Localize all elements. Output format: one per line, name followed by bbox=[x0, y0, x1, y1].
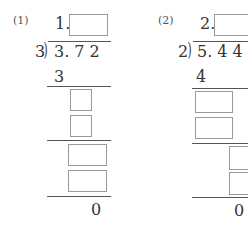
first-product: 3 bbox=[54, 69, 64, 85]
quotient-prefix: 1. bbox=[55, 16, 70, 32]
answer-box[interactable] bbox=[229, 172, 248, 195]
answer-box[interactable] bbox=[68, 144, 107, 166]
problem-label: (2) bbox=[158, 14, 174, 27]
quotient-answer-box[interactable] bbox=[214, 14, 248, 36]
remainder: 0 bbox=[91, 202, 101, 218]
dividend: 5. 4 4 bbox=[197, 44, 243, 60]
subtraction-line-3 bbox=[192, 197, 248, 198]
subtraction-line-1 bbox=[47, 86, 111, 87]
division-bracket-icon: ) bbox=[187, 41, 191, 59]
division-bracket-icon: ) bbox=[43, 41, 47, 59]
answer-box[interactable] bbox=[68, 170, 107, 192]
first-product: 4 bbox=[196, 69, 206, 85]
answer-box[interactable] bbox=[70, 89, 92, 111]
answer-box[interactable] bbox=[195, 117, 233, 139]
subtraction-line-2 bbox=[192, 143, 248, 144]
answer-box[interactable] bbox=[70, 115, 92, 137]
dividend: 3. 7 2 bbox=[54, 44, 100, 60]
subtraction-line-2 bbox=[47, 140, 111, 141]
quotient-prefix: 2. bbox=[200, 16, 215, 32]
answer-box[interactable] bbox=[229, 146, 248, 170]
remainder: 0 bbox=[234, 203, 244, 219]
subtraction-line-3 bbox=[47, 196, 111, 197]
answer-box[interactable] bbox=[195, 91, 233, 113]
quotient-answer-box[interactable] bbox=[69, 14, 108, 36]
subtraction-line-1 bbox=[192, 88, 248, 89]
problem-label: (1) bbox=[13, 14, 29, 27]
